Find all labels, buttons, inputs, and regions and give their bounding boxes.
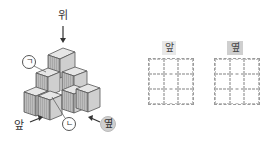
grid-cell[interactable] [178, 74, 193, 89]
grid-cell[interactable] [149, 59, 164, 74]
grid-cell[interactable] [164, 74, 179, 89]
grid-cell[interactable] [230, 89, 245, 104]
grid-cell[interactable] [244, 59, 259, 74]
grid-cell[interactable] [149, 89, 164, 104]
marker-a: ㄱ [22, 55, 36, 69]
grid-cell[interactable] [244, 74, 259, 89]
grid-cell[interactable] [178, 89, 193, 104]
label-front: 앞 [14, 120, 24, 131]
grid-cell[interactable] [178, 59, 193, 74]
grid-cell[interactable] [230, 74, 245, 89]
front-view-label: 앞 [162, 41, 176, 55]
side-view-label: 옆 [227, 41, 243, 55]
grid-cell[interactable] [164, 89, 179, 104]
cube-stack-figure: 위 [0, 0, 140, 142]
grid-cell[interactable] [244, 89, 259, 104]
grid-cell[interactable] [215, 89, 230, 104]
grid-cell[interactable] [215, 74, 230, 89]
grid-cell[interactable] [230, 59, 245, 74]
marker-b: ㄴ [62, 117, 76, 131]
front-view-grid[interactable] [148, 58, 194, 105]
grid-cell[interactable] [149, 74, 164, 89]
grid-cell[interactable] [215, 59, 230, 74]
grid-cell[interactable] [164, 59, 179, 74]
side-view-grid[interactable] [214, 58, 260, 105]
label-side: 옆 [100, 116, 116, 132]
